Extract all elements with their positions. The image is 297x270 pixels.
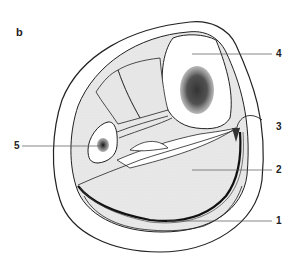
- panel-label: b: [16, 27, 23, 37]
- label-4: 4: [276, 49, 282, 59]
- fibula-marrow: [97, 138, 109, 152]
- label-1: 1: [276, 216, 282, 226]
- label-3: 3: [276, 122, 282, 132]
- label-2: 2: [276, 165, 282, 175]
- label-5: 5: [14, 141, 20, 151]
- cross-section-diagram: [0, 0, 297, 270]
- tibia-marrow: [180, 66, 214, 114]
- diagram-svg: [0, 0, 297, 270]
